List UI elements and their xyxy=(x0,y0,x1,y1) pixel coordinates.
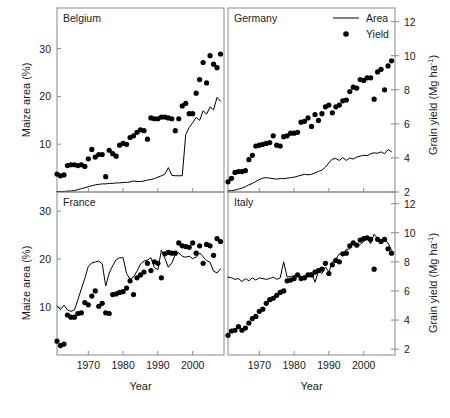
data-point xyxy=(385,246,390,251)
xaxis-italy: 1970198019902000Year xyxy=(248,359,376,392)
data-point xyxy=(337,259,342,264)
data-point xyxy=(368,237,373,242)
ytick-label-right-10: 10 xyxy=(404,50,416,62)
data-point xyxy=(250,153,255,158)
ytick-label-right-12: 12 xyxy=(404,198,416,210)
xtick-label-1970: 1970 xyxy=(77,359,101,371)
ytick-label-left-30: 30 xyxy=(39,43,51,55)
ytick-label-right-10: 10 xyxy=(404,227,416,239)
data-point xyxy=(190,111,195,116)
data-point xyxy=(145,261,150,266)
data-point xyxy=(204,80,209,85)
data-point xyxy=(100,152,105,157)
data-point xyxy=(89,293,94,298)
data-point xyxy=(107,311,112,316)
data-point xyxy=(246,320,251,325)
xtick-label-1970: 1970 xyxy=(248,359,272,371)
data-point xyxy=(246,157,251,162)
data-point xyxy=(385,63,390,68)
ytick-label-right-2: 2 xyxy=(404,343,410,355)
data-point xyxy=(148,268,153,273)
data-point xyxy=(267,140,272,145)
xtick-label-1980: 1980 xyxy=(111,359,135,371)
ytick-label-right-8: 8 xyxy=(404,256,410,268)
panel-italy: 24681012Italy xyxy=(225,192,415,355)
yaxis-title-right: Grain yield (Mg ha-1) xyxy=(426,55,440,155)
xtick-label-1980: 1980 xyxy=(282,359,306,371)
data-point xyxy=(79,310,84,315)
yaxis-title-left: Maize area (%) xyxy=(20,246,32,321)
data-point xyxy=(278,143,283,148)
data-point xyxy=(295,130,300,135)
data-point xyxy=(389,251,394,256)
legend-label-yield: Yield xyxy=(366,28,389,40)
ytick-label-right-4: 4 xyxy=(404,314,410,326)
data-point xyxy=(127,278,132,283)
panel-title-belgium: Belgium xyxy=(63,12,101,24)
data-point xyxy=(86,156,91,161)
panel-belgium: 102030Belgium xyxy=(39,8,224,192)
data-point xyxy=(173,251,178,256)
data-point xyxy=(330,110,335,115)
data-point xyxy=(372,267,377,272)
data-point xyxy=(201,261,206,266)
data-point xyxy=(103,174,108,179)
data-point xyxy=(194,91,199,96)
data-point xyxy=(253,314,258,319)
data-point xyxy=(211,253,216,258)
series-points-yield-france xyxy=(54,236,223,348)
data-point xyxy=(319,267,324,272)
series-line-area-france xyxy=(57,250,221,311)
data-point xyxy=(145,137,150,142)
data-point xyxy=(372,97,377,102)
data-point xyxy=(344,97,349,102)
data-point xyxy=(207,53,212,58)
data-point xyxy=(368,75,373,80)
ytick-label-right-6: 6 xyxy=(404,118,410,130)
data-point xyxy=(114,154,119,159)
data-point xyxy=(54,339,59,344)
data-point xyxy=(169,116,174,121)
data-point xyxy=(354,243,359,248)
data-point xyxy=(124,142,129,147)
data-point xyxy=(155,261,160,266)
panel-title-france: France xyxy=(63,196,96,208)
data-point xyxy=(354,85,359,90)
yaxis-title-right-text: Grain yield (Mg ha-1) xyxy=(426,55,440,155)
data-point xyxy=(229,176,234,181)
data-point xyxy=(326,271,331,276)
xtick-label-1990: 1990 xyxy=(146,359,170,371)
data-point xyxy=(378,67,383,72)
data-point xyxy=(260,307,265,312)
ytick-label-right-8: 8 xyxy=(404,84,410,96)
legend-dot-swatch xyxy=(343,31,349,37)
xtick-label-2000: 2000 xyxy=(181,359,205,371)
panel-france: 102030France xyxy=(39,192,224,355)
data-point xyxy=(197,243,202,248)
data-point xyxy=(326,103,331,108)
data-point xyxy=(89,147,94,152)
legend: AreaYield xyxy=(333,12,389,40)
data-point xyxy=(201,60,206,65)
data-point xyxy=(218,51,223,56)
data-point xyxy=(176,116,181,121)
yaxis-title-left: Maize area (%) xyxy=(20,63,32,138)
data-point xyxy=(389,58,394,63)
legend-label-area: Area xyxy=(366,12,388,24)
ytick-label-left-30: 30 xyxy=(39,205,51,217)
data-point xyxy=(309,124,314,129)
data-point xyxy=(312,112,317,117)
ytick-label-left-20: 20 xyxy=(39,253,51,265)
data-point xyxy=(214,65,219,70)
ytick-label-left-10: 10 xyxy=(39,138,51,150)
data-point xyxy=(207,243,212,248)
data-point xyxy=(141,269,146,274)
ytick-label-right-4: 4 xyxy=(404,152,410,164)
data-point xyxy=(281,288,286,293)
data-point xyxy=(183,101,188,106)
data-point xyxy=(337,103,342,108)
chart-canvas: 102030Belgium24681012Germany102030France… xyxy=(0,0,450,418)
ytick-label-right-12: 12 xyxy=(404,16,416,28)
xaxis-title: Year xyxy=(129,380,152,392)
xaxis-france: 1970198019902000Year xyxy=(77,359,205,392)
